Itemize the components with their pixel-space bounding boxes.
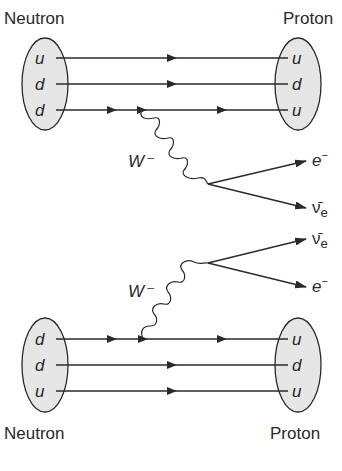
top-proton-label: Proton xyxy=(283,9,333,28)
feynman-diagram: Neutron Proton u d d u d u W⁻ e− ν̄e xyxy=(0,0,342,471)
bottom-electron-label: e− xyxy=(312,275,328,296)
bottom-neutron-quark-1: d xyxy=(35,330,45,349)
bottom-proton-quark-2: d xyxy=(292,356,302,375)
bottom-proton-quark-3: u xyxy=(292,382,302,401)
top-quark-lines xyxy=(56,58,288,110)
top-electron-label: e− xyxy=(312,149,328,170)
bottom-neutron-quark-3: u xyxy=(35,382,45,401)
top-neutron-label: Neutron xyxy=(4,9,64,28)
top-w-boson-label: W⁻ xyxy=(128,152,155,171)
bottom-panel: ν̄e e− W⁻ d d u u d u Neutron Proton xyxy=(4,229,328,443)
top-neutron-quark-3: d xyxy=(35,101,45,120)
top-electron-line xyxy=(208,161,306,184)
top-antineutrino-label: ν̄e xyxy=(312,198,328,220)
top-panel: Neutron Proton u d d u d u W⁻ e− ν̄e xyxy=(4,9,333,220)
bottom-quark-lines xyxy=(56,339,288,391)
top-antineutrino-line xyxy=(208,184,306,208)
bottom-proton-quark-1: u xyxy=(292,330,302,349)
top-w-boson-wavy-line xyxy=(141,110,208,184)
bottom-electron-line xyxy=(208,263,306,287)
bottom-antineutrino-line xyxy=(208,239,306,263)
top-proton-quark-1: u xyxy=(292,49,302,68)
bottom-proton-label: Proton xyxy=(270,424,320,443)
bottom-neutron-label: Neutron xyxy=(4,424,64,443)
bottom-antineutrino-label: ν̄e xyxy=(312,229,328,251)
top-neutron-quark-1: u xyxy=(35,49,45,68)
bottom-w-boson-label: W⁻ xyxy=(128,282,155,301)
top-proton-quark-2: d xyxy=(292,75,302,94)
top-proton-quark-3: u xyxy=(292,101,302,120)
top-neutron-quark-2: d xyxy=(35,75,45,94)
bottom-neutron-quark-2: d xyxy=(35,356,45,375)
